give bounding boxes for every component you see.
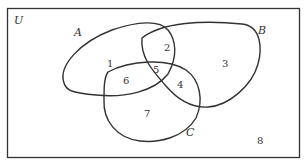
region-6-label: 6: [123, 75, 129, 86]
universe-label: U: [14, 14, 24, 27]
region-2-label: 2: [164, 42, 170, 53]
set-c-label: C: [186, 126, 195, 139]
venn-diagram: U A B C 1 2 3 4 5 6 7 8: [0, 0, 306, 164]
region-8-label: 8: [257, 135, 263, 146]
region-5-label: 5: [153, 64, 159, 75]
region-1-label: 1: [107, 58, 113, 69]
set-b-label: B: [257, 24, 266, 37]
region-7-label: 7: [144, 108, 150, 119]
set-b-curve: [142, 22, 260, 107]
set-a-label: A: [73, 26, 82, 39]
region-4-label: 4: [177, 79, 183, 90]
region-3-label: 3: [222, 58, 228, 69]
